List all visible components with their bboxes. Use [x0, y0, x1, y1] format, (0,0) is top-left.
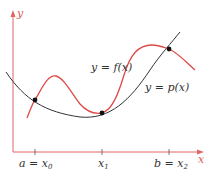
- interpolation-point-x2: [167, 47, 172, 52]
- y-axis-arrow-icon: [11, 10, 16, 17]
- curve-p-label: y = p(x): [145, 82, 189, 93]
- tick-label-x2: b = x2: [154, 158, 188, 171]
- curve-f-label: y = f(x): [91, 62, 132, 73]
- tick-label-x0: a = x0: [19, 158, 52, 171]
- y-axis-label: y: [17, 8, 23, 19]
- interpolation-point-x0: [33, 98, 38, 103]
- x-axis-label: x: [198, 154, 204, 165]
- tick-label-x1: x1: [98, 158, 109, 171]
- interpolation-point-x1: [100, 111, 105, 116]
